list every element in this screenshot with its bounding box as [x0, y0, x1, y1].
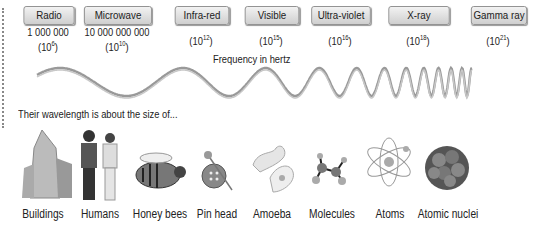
band-button-visible[interactable]: Visible	[245, 6, 299, 25]
band-button-x-ray[interactable]: X-ray	[388, 6, 449, 25]
object-label: Amoeba	[238, 207, 306, 221]
band-button-gamma-ray[interactable]: Gamma ray	[471, 6, 527, 25]
molecules-icon	[310, 150, 355, 190]
band-frequency: 10 000 000 000(1010)	[79, 26, 156, 53]
frequency-exponent: (1012)	[163, 32, 240, 47]
frequency-exponent: (1010)	[79, 38, 156, 53]
wavelength-caption: Their wavelength is about the size of...	[18, 108, 178, 120]
frequency-exponent: (106)	[10, 38, 87, 53]
atoms-icon	[362, 135, 417, 190]
frequency-value: 1 000 000	[10, 26, 87, 38]
buildings-icon	[20, 128, 75, 200]
band-frequency: (1012)	[163, 32, 240, 47]
band-button-infra-red[interactable]: Infra-red	[175, 6, 229, 25]
frequency-exponent: (1015)	[233, 32, 310, 47]
amoeba-icon	[248, 140, 298, 195]
frequency-value: 10 000 000 000	[79, 26, 156, 38]
band-frequency: 1 000 000(106)	[10, 26, 87, 53]
wave-line	[37, 68, 472, 96]
band-button-microwave[interactable]: Microwave	[84, 6, 152, 25]
pin-head-icon	[198, 150, 238, 195]
wave-graphic	[0, 60, 506, 110]
band-button-radio[interactable]: Radio	[24, 6, 75, 25]
band-button-ultra-violet[interactable]: Ultra-violet	[311, 6, 371, 25]
band-frequency: (1021)	[460, 32, 533, 47]
object-label: Humans	[66, 207, 134, 221]
frequency-exponent: (1021)	[460, 32, 533, 47]
band-frequency: (1015)	[233, 32, 310, 47]
humans-icon	[75, 128, 125, 203]
band-frequency: (1018)	[380, 32, 457, 47]
frequency-exponent: (1016)	[302, 32, 379, 47]
honey-bee-icon	[128, 150, 193, 195]
frequency-exponent: (1018)	[380, 32, 457, 47]
band-frequency: (1016)	[302, 32, 379, 47]
object-label: Atomic nuclei	[414, 207, 482, 221]
atomic-nucleus-icon	[422, 143, 472, 193]
